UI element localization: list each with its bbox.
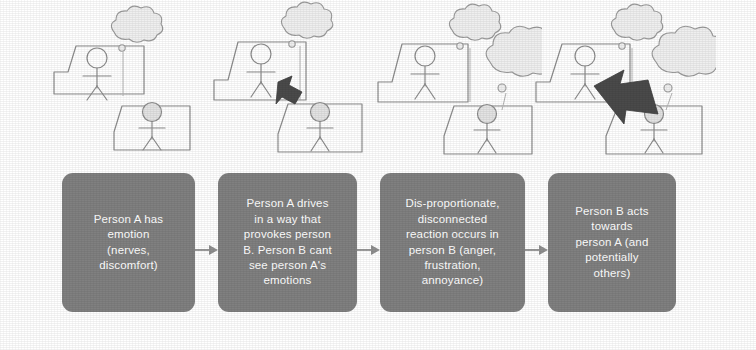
flow-step-1[interactable]: Person A has emotion (nerves, discomfort… bbox=[62, 173, 195, 312]
illustration-strip bbox=[0, 0, 756, 168]
flow-steps-row: Person A has emotion (nerves, discomfort… bbox=[0, 170, 756, 320]
flow-step-2-label: Person A drives in a way that provokes p… bbox=[243, 196, 332, 288]
flow-step-3[interactable]: Dis-proportionate, disconnected reaction… bbox=[380, 173, 525, 312]
connector-2-3 bbox=[357, 242, 380, 254]
person-a-figure bbox=[411, 46, 439, 99]
person-a-figure bbox=[83, 48, 111, 100]
person-b-figure bbox=[474, 105, 500, 154]
flow-step-2[interactable]: Person A drives in a way that provokes p… bbox=[218, 173, 357, 312]
connector-1-2 bbox=[195, 242, 218, 254]
person-b-thought-cloud bbox=[652, 26, 716, 92]
person-a-thought-cloud bbox=[111, 6, 162, 51]
person-a-thought-cloud bbox=[281, 2, 332, 47]
connector-3-4 bbox=[525, 242, 548, 254]
person-a-figure bbox=[571, 46, 599, 99]
panel-3-illustration bbox=[372, 0, 542, 168]
panel-2-illustration bbox=[210, 0, 378, 168]
panel-1-illustration bbox=[52, 0, 212, 168]
emotion-cycle-diagram: Person A has emotion (nerves, discomfort… bbox=[0, 0, 756, 350]
person-b-figure bbox=[307, 103, 333, 152]
flow-step-1-label: Person A has emotion (nerves, discomfort… bbox=[94, 212, 164, 274]
person-a-thought-cloud bbox=[611, 4, 662, 49]
flow-step-4-label: Person B acts towards person A (and pote… bbox=[575, 204, 649, 281]
flow-step-3-label: Dis-proportionate, disconnected reaction… bbox=[405, 196, 499, 288]
person-b-figure bbox=[139, 103, 165, 151]
panel-4-illustration bbox=[530, 0, 716, 168]
flow-step-4[interactable]: Person B acts towards person A (and pote… bbox=[548, 173, 676, 312]
person-a-figure bbox=[247, 44, 275, 97]
